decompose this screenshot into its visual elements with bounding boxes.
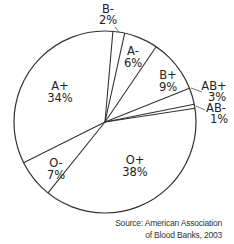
slice-label-percent: 38% bbox=[122, 165, 148, 179]
slice-label-percent: 34% bbox=[47, 91, 73, 105]
source-line-2: of Blood Banks, 2003 bbox=[145, 230, 222, 240]
slice-label-percent: 7% bbox=[47, 168, 65, 182]
slice-label-percent: 6% bbox=[124, 56, 142, 70]
leader-line-abneg bbox=[196, 106, 205, 110]
slice-label-percent: 9% bbox=[159, 80, 177, 94]
pie-chart: B-2%A-6%B+9%AB+3%AB-1%A+34%O-7%O+38% Sou… bbox=[0, 0, 234, 244]
source-line-1: Source: American Association bbox=[115, 218, 222, 228]
slice-label-percent: 2% bbox=[99, 13, 117, 27]
slice-label-percent: 1% bbox=[210, 112, 228, 126]
